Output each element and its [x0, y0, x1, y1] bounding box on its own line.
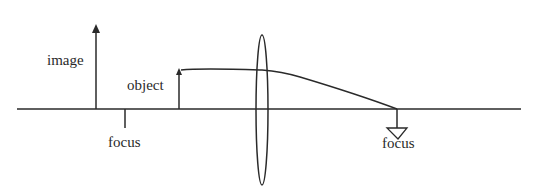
object-arrowhead-icon	[176, 68, 182, 75]
image-label: image	[47, 53, 84, 68]
focus-right-label: focus	[382, 136, 415, 151]
image-arrowhead-icon	[92, 24, 100, 33]
focus-left-label: focus	[108, 135, 141, 150]
object-label: object	[127, 78, 164, 93]
light-ray	[181, 69, 397, 109]
optics-diagram: image object focus focus	[0, 0, 543, 191]
convex-lens	[256, 35, 268, 185]
diagram-canvas	[0, 0, 543, 191]
